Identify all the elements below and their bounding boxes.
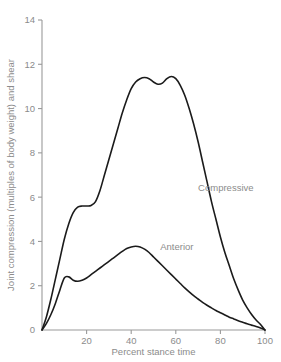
series-line-compressive bbox=[42, 76, 265, 330]
chart-plot-area: 02468101214 20406080100 CompressiveAnter… bbox=[0, 0, 281, 362]
y-tick-label: 14 bbox=[24, 14, 35, 25]
annotation-compressive: Compressive bbox=[198, 182, 253, 193]
x-axis-title: Percent stance time bbox=[112, 346, 196, 357]
y-tick-label: 6 bbox=[30, 192, 35, 203]
y-axis-title: Joint compression (multiples of body wei… bbox=[5, 59, 16, 291]
series-lines bbox=[42, 76, 265, 330]
annotation-anterior: Anterior bbox=[160, 241, 193, 252]
chart-figure: 02468101214 20406080100 CompressiveAnter… bbox=[0, 0, 281, 362]
y-tick-label: 4 bbox=[30, 236, 35, 247]
x-tick-label: 20 bbox=[81, 335, 92, 346]
x-tick-label: 100 bbox=[257, 335, 273, 346]
series-line-anterior bbox=[42, 246, 265, 330]
y-tick-label: 0 bbox=[30, 324, 35, 335]
y-tick-label: 10 bbox=[24, 103, 35, 114]
y-axis: 02468101214 bbox=[24, 14, 42, 335]
x-tick-label: 60 bbox=[171, 335, 182, 346]
x-tick-label: 40 bbox=[126, 335, 137, 346]
series-annotations: CompressiveAnterior bbox=[160, 182, 253, 253]
x-tick-label: 80 bbox=[215, 335, 226, 346]
y-tick-label: 8 bbox=[30, 147, 35, 158]
x-axis: 20406080100 bbox=[42, 330, 273, 346]
y-tick-label: 2 bbox=[30, 280, 35, 291]
y-tick-label: 12 bbox=[24, 59, 35, 70]
